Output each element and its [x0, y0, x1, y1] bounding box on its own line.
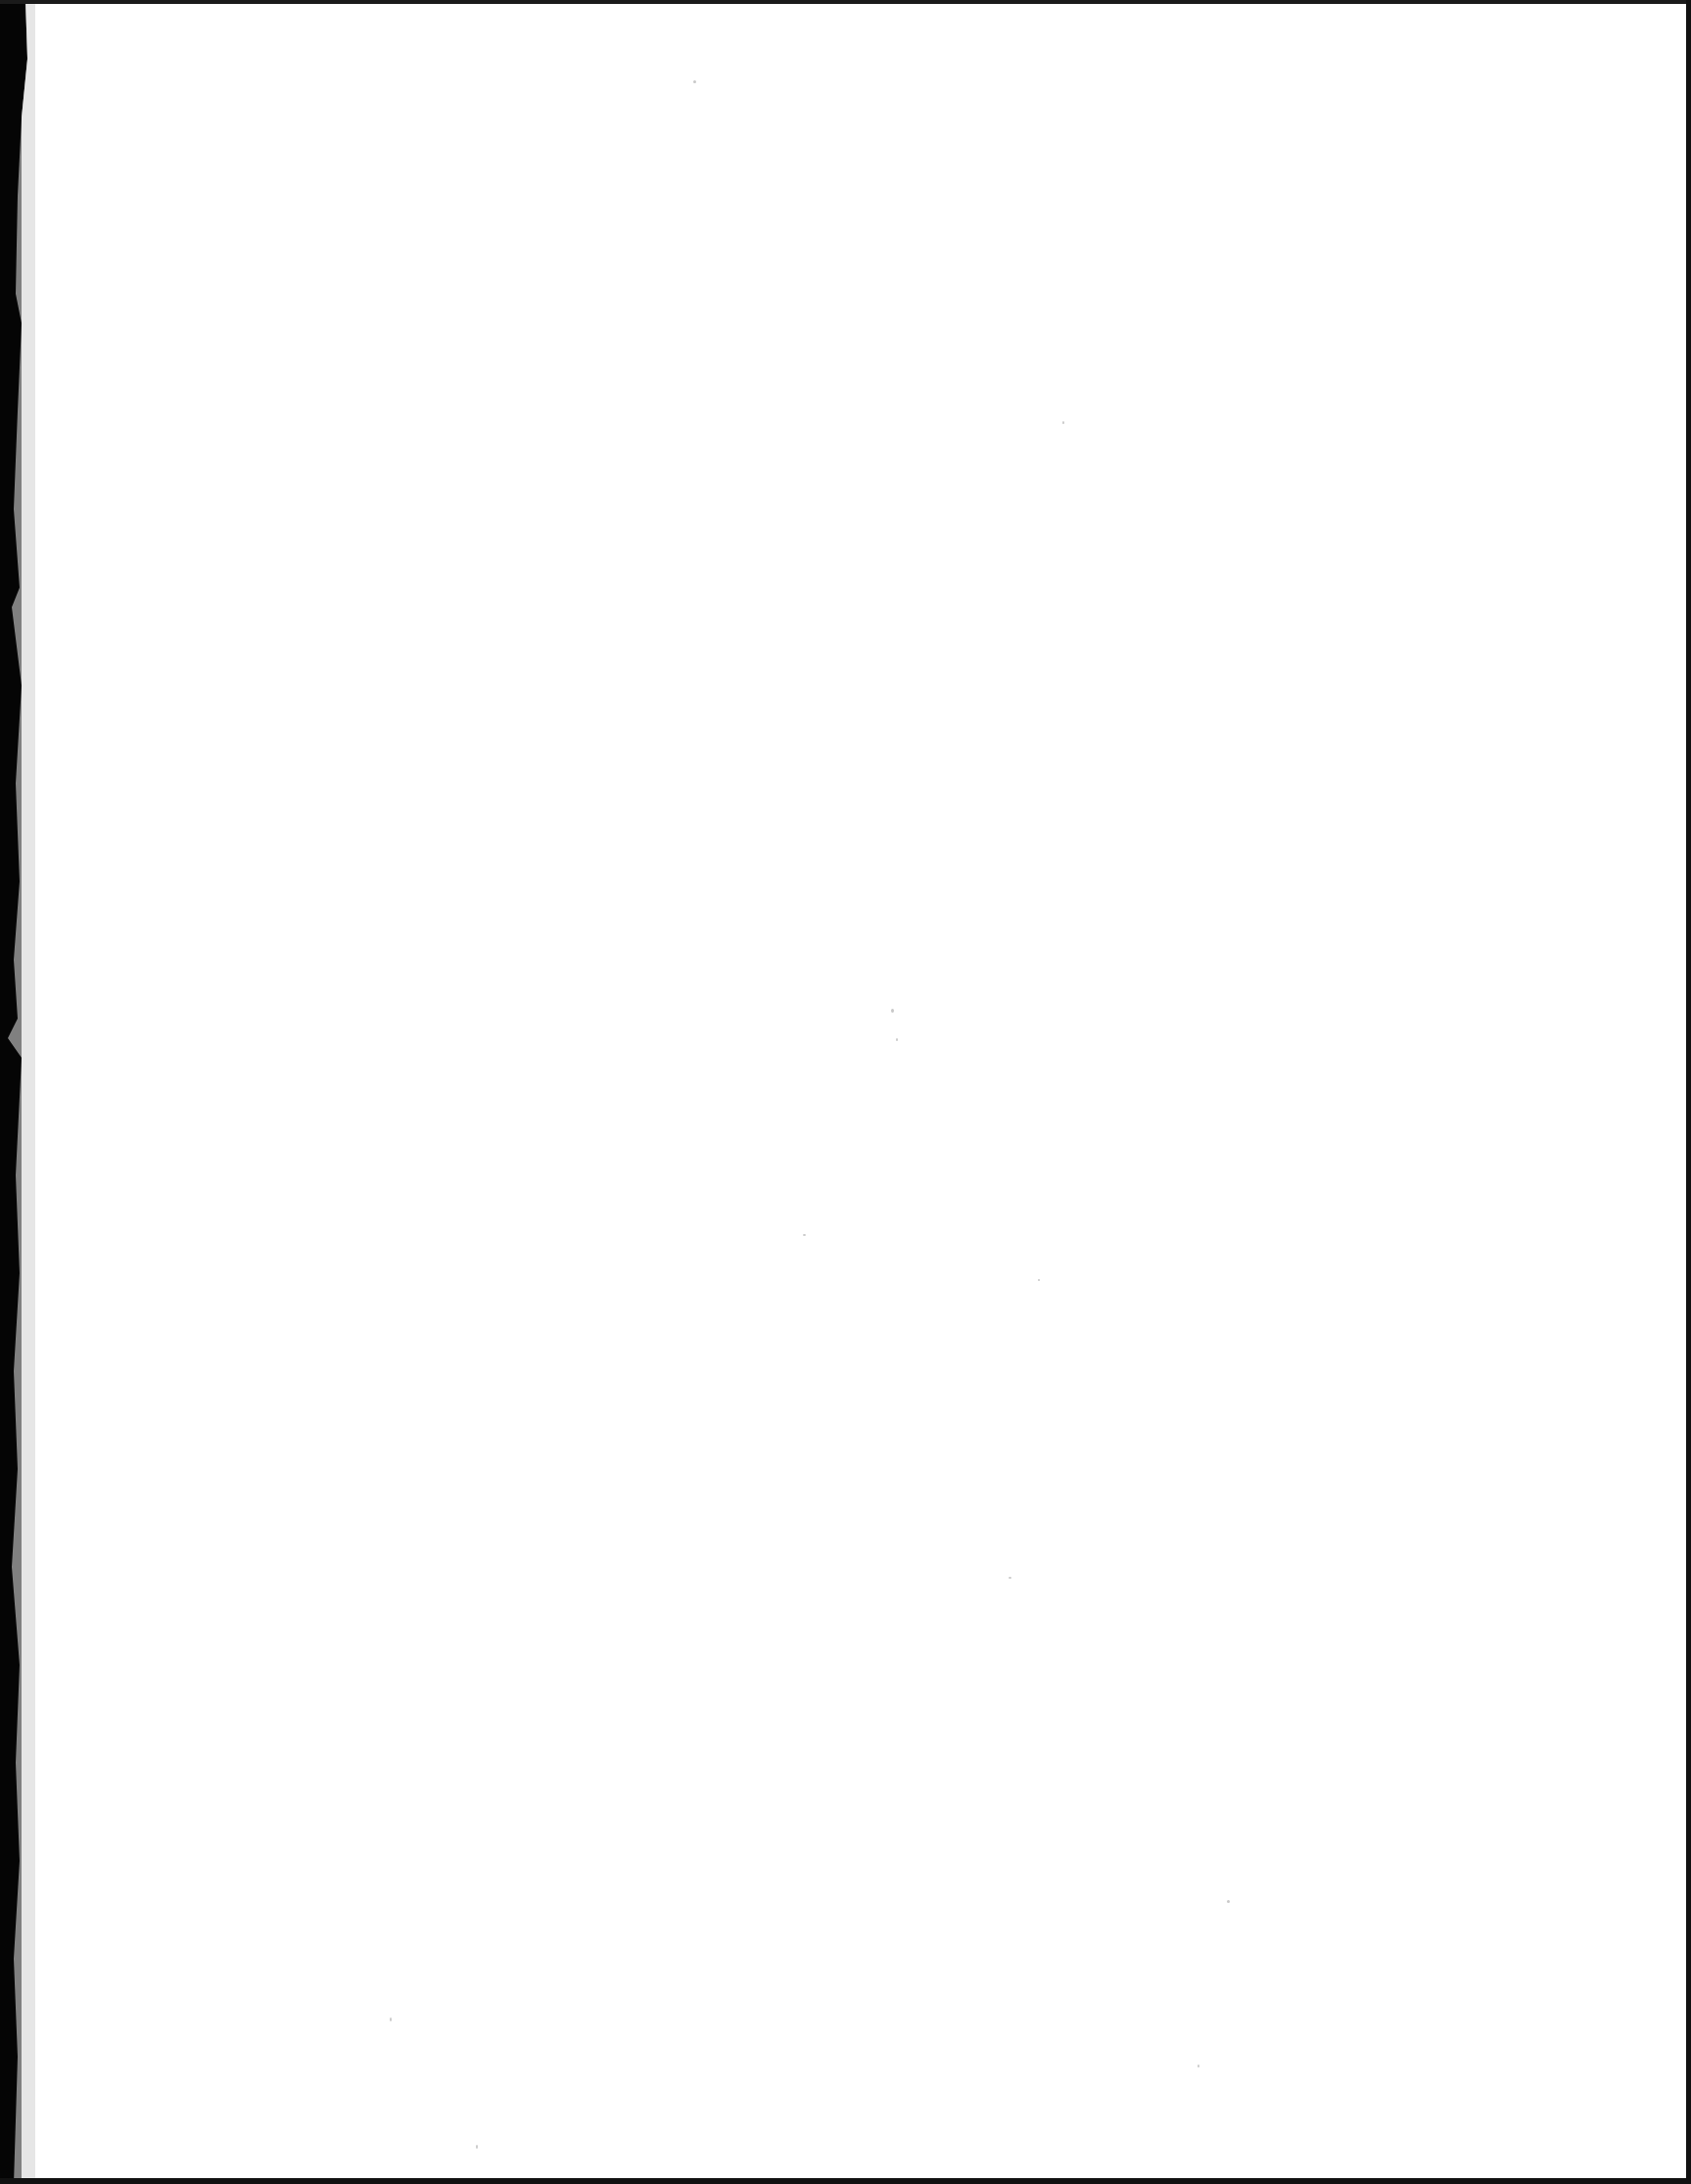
- scanned-page-frame: [0, 0, 1691, 2184]
- scan-noise-speck: [1009, 1577, 1011, 1579]
- scan-noise-speck: [1038, 1279, 1040, 1281]
- scan-noise-speck: [891, 1009, 894, 1013]
- blank-paper-page: [22, 4, 1686, 2178]
- scan-noise-speck: [476, 2145, 478, 2149]
- scan-noise-speck: [693, 80, 696, 83]
- scan-noise-speck: [1227, 1900, 1230, 1903]
- scan-noise-speck: [390, 2018, 392, 2021]
- scan-noise-speck: [896, 1038, 898, 1041]
- right-scan-border: [1686, 0, 1691, 2184]
- scan-noise-speck: [1062, 421, 1064, 424]
- bottom-scan-border: [0, 2178, 1691, 2184]
- scan-noise-speck: [1198, 2065, 1199, 2067]
- top-scan-border: [0, 0, 1691, 4]
- scan-noise-speck: [803, 1234, 806, 1236]
- torn-left-edge: [0, 0, 39, 2184]
